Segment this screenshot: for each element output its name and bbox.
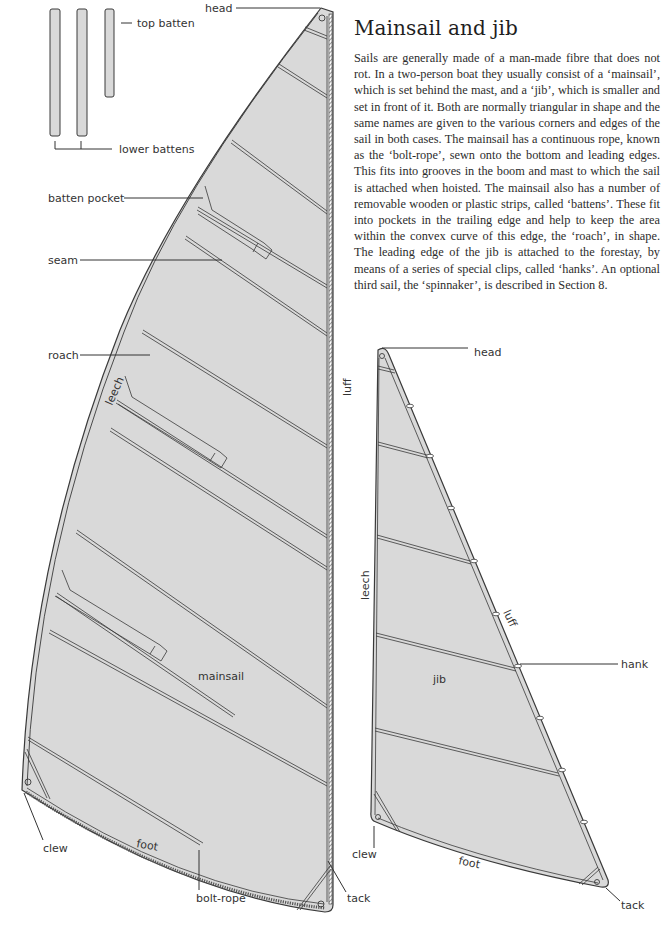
lower-batten-2 <box>77 9 87 136</box>
lower-batten-1 <box>50 9 60 136</box>
hank-icon <box>448 506 455 510</box>
hank-icon <box>515 664 522 668</box>
roach-label: roach <box>48 349 79 362</box>
hank-icon <box>427 454 434 458</box>
hank-icon <box>581 820 588 824</box>
mainsail-clew-label: clew <box>43 842 68 855</box>
batten-pocket-label: batten pocket <box>48 192 125 205</box>
top-batten <box>105 9 114 97</box>
jib-leech-label: leech <box>359 570 372 600</box>
hank-label: hank <box>621 658 649 671</box>
article-body: Sails are generally made of a man-made f… <box>354 50 660 293</box>
lower-battens-bracket <box>55 141 112 149</box>
hank-icon <box>537 716 544 720</box>
battens-group: top batten lower battens <box>50 9 195 156</box>
lower-battens-label: lower battens <box>119 143 195 156</box>
seam-label: seam <box>48 254 78 267</box>
mainsail-name-label: mainsail <box>198 670 244 683</box>
mainsail: head batten pocket seam roach leech luff… <box>22 2 371 912</box>
hank-icon <box>559 768 566 772</box>
hank-icon <box>471 559 478 563</box>
jib-name-label: jib <box>432 673 446 686</box>
mainsail-luff-bolt-rope <box>329 14 332 904</box>
top-batten-label: top batten <box>137 17 195 30</box>
bolt-rope-label: bolt-rope <box>196 892 246 905</box>
hank-icon <box>493 612 500 616</box>
jib-clew-label: clew <box>352 848 377 861</box>
mainsail-luff-label: luff <box>341 378 354 396</box>
hank-icon <box>407 404 414 408</box>
jib-luff-label: luff <box>500 608 519 630</box>
mainsail-tack-label: tack <box>347 892 371 905</box>
mainsail-head-label: head <box>205 2 232 15</box>
article: Mainsail and jib Sails are generally mad… <box>354 16 660 293</box>
jib-head-label: head <box>474 346 501 359</box>
jib: head leech luff hank jib clew foot tack <box>352 346 649 912</box>
article-title: Mainsail and jib <box>354 16 660 40</box>
jib-body <box>371 348 609 887</box>
jib-tack-label: tack <box>621 899 645 912</box>
jib-tack-leader <box>606 888 620 901</box>
